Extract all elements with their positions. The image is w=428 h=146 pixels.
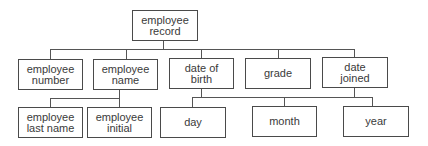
node-day: day [160,107,226,138]
connector-to-date-of-birth [201,49,202,58]
node-employee-name: employee name [93,59,158,90]
node-label: employee initial [96,112,144,134]
node-label: date joined [340,62,369,84]
employee-record-hierarchy-diagram: employee record employee number employee… [0,0,428,146]
node-month: month [252,106,317,137]
node-date-joined: date joined [322,57,388,88]
node-label: employee record [141,15,189,37]
connector-level1-bus [50,49,355,50]
node-label: day [184,117,202,128]
connector-to-date-joined [354,49,355,57]
connector-name-bus [50,98,120,99]
connector-to-employee-last-name [50,98,51,107]
node-label: employee name [102,64,150,86]
connector-to-year [372,97,373,106]
connector-to-employee-name [126,49,127,59]
node-label: employee number [27,64,75,86]
node-date-of-birth: date of birth [169,58,234,89]
node-employee-number: employee number [18,59,83,90]
node-label: date of birth [185,63,219,85]
node-label: grade [264,68,292,79]
node-year: year [343,106,409,137]
connector-to-grade [278,49,279,58]
connector-date-joined-down [354,88,355,97]
node-label: month [269,116,300,127]
connector-date-of-birth-down [201,89,202,97]
node-label: year [365,116,386,127]
node-grade: grade [245,58,311,89]
connector-date-bus [192,97,373,98]
connector-to-employee-number [50,49,51,59]
connector-to-day [192,97,193,107]
node-label: employee last name [27,112,75,134]
node-employee-last-name: employee last name [18,107,83,138]
node-employee-record: employee record [132,10,198,41]
connector-to-month [284,97,285,106]
node-employee-initial: employee initial [87,107,152,138]
